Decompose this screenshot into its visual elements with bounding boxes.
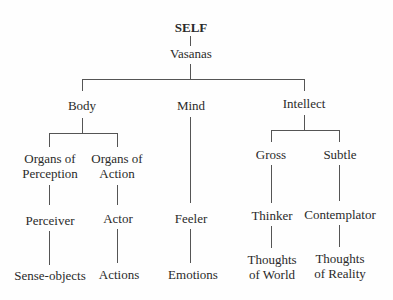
connector-to-gross	[271, 130, 272, 142]
connector-to-body	[82, 79, 83, 91]
connector-intellect-down	[304, 115, 305, 130]
connector-self-vasanas	[190, 36, 191, 46]
connector-feeler-emotions	[190, 229, 191, 263]
connector-intellect-horizontal	[271, 130, 340, 131]
connector-subtle-contemplator	[339, 165, 340, 201]
connector-to-action	[117, 133, 118, 147]
node-self: SELF	[175, 20, 208, 35]
connector-gross-thinker	[271, 165, 272, 203]
thoughts-reality-line1: Thoughts	[314, 251, 366, 266]
node-actor: Actor	[103, 211, 133, 226]
node-vasanas: Vasanas	[170, 46, 212, 61]
action-line1: Organs of	[91, 151, 142, 166]
connector-body-down	[82, 118, 83, 133]
node-perceiver: Perceiver	[25, 213, 74, 228]
node-actions: Actions	[99, 267, 139, 282]
connector-mind-feeler	[190, 117, 191, 203]
connector-action-actor	[117, 185, 118, 205]
connector-to-subtle	[339, 130, 340, 142]
node-thinker: Thinker	[251, 208, 292, 223]
connector-to-perception	[49, 133, 50, 147]
connector-body-horizontal	[49, 133, 118, 134]
node-emotions: Emotions	[168, 267, 218, 282]
node-sense-objects: Sense-objects	[14, 268, 85, 283]
node-gross: Gross	[256, 147, 286, 162]
action-line2: Action	[91, 166, 142, 181]
node-contemplator: Contemplator	[304, 207, 376, 222]
node-intellect: Intellect	[283, 96, 326, 111]
node-body: Body	[68, 98, 96, 113]
node-organs-of-action: Organs of Action	[91, 151, 142, 181]
connector-to-intellect	[304, 79, 305, 91]
thoughts-reality-line2: of Reality	[314, 266, 366, 281]
connector-perceiver-sense-objects	[49, 231, 50, 265]
connector-vasanas-down	[190, 64, 191, 80]
node-organs-of-perception: Organs of Perception	[22, 151, 78, 181]
node-thoughts-of-world: Thoughts of World	[247, 252, 296, 282]
node-mind: Mind	[177, 98, 205, 113]
perception-line2: Perception	[22, 166, 78, 181]
connector-actor-actions	[117, 229, 118, 263]
connector-level2-horizontal	[82, 79, 305, 80]
node-subtle: Subtle	[323, 147, 356, 162]
thoughts-world-line1: Thoughts	[247, 252, 296, 267]
node-thoughts-of-reality: Thoughts of Reality	[314, 251, 366, 281]
perception-line1: Organs of	[22, 151, 78, 166]
connector-thinker-thoughts	[271, 226, 272, 248]
node-feeler: Feeler	[175, 211, 207, 226]
connector-contemplator-thoughts	[339, 225, 340, 247]
thoughts-world-line2: of World	[247, 267, 296, 282]
self-hierarchy-diagram: SELF Vasanas Body Organs of Perception O…	[0, 0, 393, 300]
connector-perception-perceiver	[49, 185, 50, 205]
